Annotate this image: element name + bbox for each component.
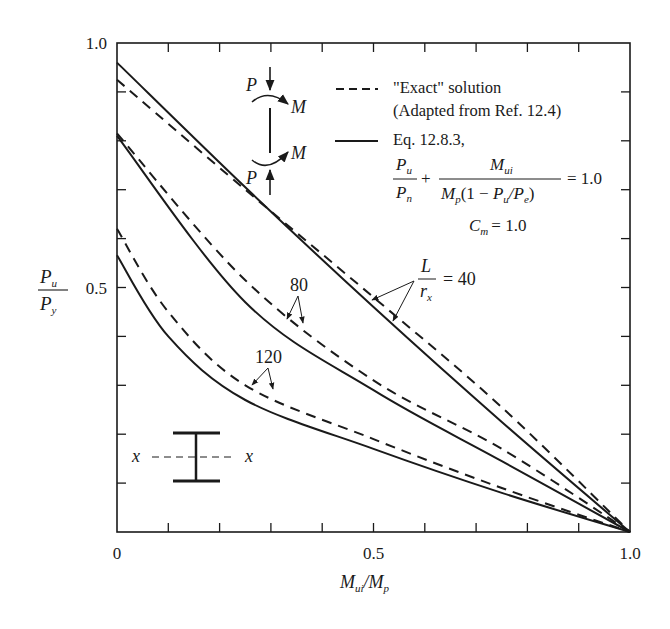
diagram-m-top: M [290,97,307,117]
legend-dashed-label-2: (Adapted from Ref. 12.4) [393,101,561,120]
annotation-lr-40: L rx = 40 [372,256,476,321]
eq-plus: + [421,169,431,188]
ann40-value: = 40 [443,269,476,289]
legend-solid-label: Eq. 12.8.3, [393,130,465,149]
ann120-label: 120 [255,347,282,367]
ann120-arrow-dashed-icon [268,368,273,389]
y-tick-label: 1.0 [86,34,107,53]
eq-mui: Mui [489,155,513,176]
series-line-lr-80-eq [117,136,630,532]
bottom-moment-arrow-icon [252,152,288,165]
interaction-equation: Pu Pn + Mui Mp(1 − Pu/Pe) = 1.0 Cm= 1.0 [393,155,602,237]
eq-denominator: Mp(1 − Pu/Pe) [440,184,535,205]
diagram-p-top: P [245,75,257,95]
x-tick-label: 0.5 [363,544,384,563]
section-x-left: x [131,446,140,466]
series-line-lr-40-eq [117,63,630,532]
ann40-L: L [420,256,431,276]
y-tick-label: 0.5 [86,279,107,298]
ann80-label: 80 [290,275,308,295]
y-axis-label: Pu Py [38,266,68,316]
x-axis-label: Mui/Mp [339,572,390,594]
ann120-arrow-solid-icon [252,368,268,385]
diagram-p-bot: P [245,168,257,188]
ann80-arrow-solid-icon [287,296,298,319]
legend-dashed-label-1: "Exact" solution [393,78,501,97]
ann80-arrow-dashed-icon [298,296,303,323]
ann40-arrow-solid-icon [393,281,414,321]
x-tick-label: 0 [113,544,122,563]
diagram-m-bot: M [290,143,307,163]
x-tick-label: 1.0 [619,544,640,563]
series-line-lr-80-exact [117,134,630,533]
top-moment-arrow-icon [252,95,288,104]
section-x-right: x [244,446,253,466]
ann40-r: rx [420,281,432,303]
ann40-arrow-dashed-icon [372,281,414,300]
legend: "Exact" solution (Adapted from Ref. 12.4… [335,78,561,149]
series-group [117,63,630,532]
wide-flange-section-icon: x x [131,433,253,481]
y-label-num: Pu [39,266,58,289]
annotation-lr-80: 80 [287,275,308,323]
cm-value: Cm= 1.0 [469,216,526,237]
y-label-den: Py [39,293,57,316]
annotation-lr-120: 120 [252,347,282,389]
eq-result: = 1.0 [567,169,602,188]
eq-pn: Pn [395,183,412,204]
eq-pu: Pu [395,155,412,176]
column-loading-diagram: P M M P [245,67,307,195]
interaction-chart: 00.51.00.51.0 Pu Py Mui/Mp P M M P "Exac… [0,0,670,629]
